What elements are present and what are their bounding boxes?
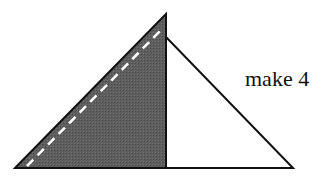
shaded-triangle — [15, 14, 166, 168]
light-triangle — [166, 37, 293, 168]
make-count-label: make 4 — [245, 66, 309, 92]
